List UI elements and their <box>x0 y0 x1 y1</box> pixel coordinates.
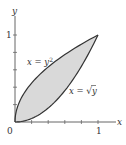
origin-label: 0 <box>7 126 13 136</box>
x-tick-label-1: 1 <box>96 126 102 136</box>
shaded-region <box>15 35 98 122</box>
y-axis-label: y <box>11 6 18 16</box>
label-x-equals-sqrt-y: x = √y <box>69 86 97 96</box>
label-x-equals-y-squared: x = y2 <box>27 56 53 68</box>
y-tick-label-1: 1 <box>6 30 12 40</box>
x-axis-label: x <box>117 117 122 127</box>
region-plot: y x 0 1 1 x = y2 x = √y <box>0 0 126 145</box>
